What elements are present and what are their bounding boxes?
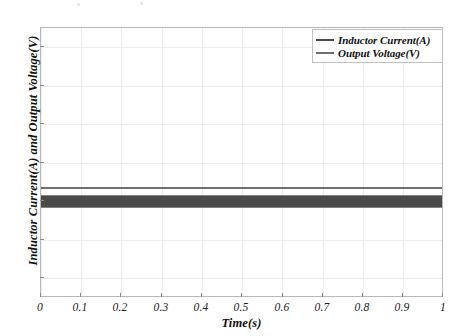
legend-item-label: Output Voltage(V): [338, 47, 420, 59]
gridline-vertical: [162, 28, 163, 296]
x-tick-label: 0.1: [65, 301, 95, 313]
y-tick-mark: [40, 200, 44, 201]
y-tick-mark: [40, 85, 44, 86]
x-tick-mark: [241, 293, 242, 297]
scan-artifact: [140, 2, 143, 5]
ripple-envelope-top: [41, 195, 442, 196]
x-tick-mark: [120, 293, 121, 297]
legend-item-output-voltage[interactable]: Output Voltage(V): [316, 46, 438, 59]
legend-line-swatch-icon: [316, 52, 334, 54]
x-tick-label: 0.2: [105, 301, 135, 313]
x-tick-label: 0.4: [186, 301, 216, 313]
gridline-vertical: [121, 28, 122, 296]
gridline-vertical: [403, 28, 404, 296]
gridline-horizontal: [41, 124, 442, 125]
plot-area: [40, 27, 443, 297]
x-tick-mark: [282, 293, 283, 297]
y-tick-mark: [40, 239, 44, 240]
y-tick-mark: [40, 123, 44, 124]
x-tick-label: 0.7: [307, 301, 337, 313]
x-tick-label: 0.5: [226, 301, 256, 313]
legend-line-swatch-icon: [316, 39, 334, 41]
y-tick-mark: [40, 277, 44, 278]
x-tick-label: 0.8: [347, 301, 377, 313]
gridline-horizontal: [41, 86, 442, 87]
x-tick-mark: [322, 293, 323, 297]
chart-figure: 20 15 10 5 0 -5 -10 0 0.1 0.2 0.3 0.4 0.…: [0, 0, 453, 336]
gridline-horizontal: [41, 278, 442, 279]
x-tick-label: 0.6: [267, 301, 297, 313]
y-tick-mark: [40, 46, 44, 47]
y-axis-title: Inductor Current(A) and Output Voltage(V…: [26, 1, 41, 301]
y-tick-mark: [40, 162, 44, 163]
x-tick-mark: [161, 293, 162, 297]
gridline-vertical: [363, 28, 364, 296]
x-tick-mark: [201, 293, 202, 297]
x-tick-mark: [80, 293, 81, 297]
legend-item-inductor-current[interactable]: Inductor Current(A): [316, 33, 438, 46]
legend[interactable]: Inductor Current(A) Output Voltage(V): [312, 29, 443, 63]
ripple-envelope-bottom: [41, 207, 442, 208]
scan-artifact: [77, 3, 80, 6]
x-tick-mark: [362, 293, 363, 297]
gridline-vertical: [282, 28, 283, 296]
gridline-vertical: [202, 28, 203, 296]
x-tick-label: 0: [25, 301, 55, 313]
gridline-horizontal: [41, 240, 442, 241]
x-axis-title: Time(s): [40, 316, 443, 331]
x-tick-mark: [442, 293, 443, 297]
gridline-vertical: [81, 28, 82, 296]
series-line-output-voltage: [41, 187, 442, 189]
gridline-vertical: [242, 28, 243, 296]
x-tick-label: 0.3: [146, 301, 176, 313]
gridline-horizontal: [41, 163, 442, 164]
x-tick-mark: [402, 293, 403, 297]
series-line-inductor-current: [41, 196, 442, 207]
x-tick-label: 1: [430, 301, 453, 313]
x-tick-label: 0.9: [387, 301, 417, 313]
legend-item-label: Inductor Current(A): [338, 34, 430, 46]
gridline-vertical: [323, 28, 324, 296]
